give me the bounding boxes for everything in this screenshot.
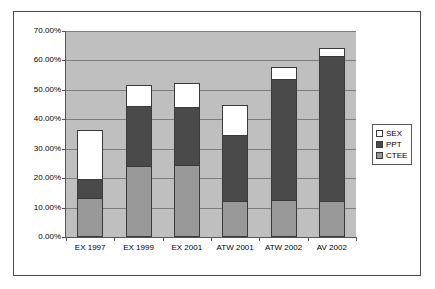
x-axis-category-label: AV 2002 xyxy=(317,244,347,252)
bar-segment-ppt[interactable] xyxy=(174,107,200,166)
gridline xyxy=(66,90,356,91)
chart-frame: 0.00%10.00%20.00%30.00%40.00%50.00%60.00… xyxy=(13,11,421,276)
stacked-bar[interactable] xyxy=(77,130,103,237)
legend-label: SEX xyxy=(386,130,402,138)
plot-area: 0.00%10.00%20.00%30.00%40.00%50.00%60.00… xyxy=(65,31,356,238)
legend-swatch-sex xyxy=(376,130,383,137)
legend-swatch-ppt xyxy=(376,141,383,148)
bar-segment-sex[interactable] xyxy=(222,105,248,136)
bar-segment-ctee[interactable] xyxy=(271,200,297,237)
y-axis-tick-mark xyxy=(62,60,66,61)
bar-segment-ppt[interactable] xyxy=(222,135,248,202)
x-axis-tick-mark xyxy=(114,237,115,241)
chart-legend: SEXPPTCTEE xyxy=(372,124,412,165)
x-axis-category-label: ATW 2002 xyxy=(265,244,302,252)
bar-segment-sex[interactable] xyxy=(126,85,152,107)
gridline xyxy=(66,60,356,61)
legend-label: PPT xyxy=(386,141,402,149)
x-axis-tick-mark xyxy=(356,237,357,241)
x-axis-tick-mark xyxy=(211,237,212,241)
y-axis-tick-label: 50.00% xyxy=(34,86,61,94)
bar-segment-ctee[interactable] xyxy=(126,166,152,237)
bar-segment-sex[interactable] xyxy=(77,130,103,180)
bar-segment-ppt[interactable] xyxy=(271,79,297,201)
gridline xyxy=(66,31,356,32)
y-axis-tick-label: 20.00% xyxy=(34,174,61,182)
x-axis-category-label: EX 2001 xyxy=(171,244,202,252)
y-axis-tick-label: 0.00% xyxy=(38,233,61,241)
bar-segment-ctee[interactable] xyxy=(174,165,200,237)
legend-label: CTEE xyxy=(386,152,407,160)
stacked-bar[interactable] xyxy=(174,83,200,237)
stacked-bar[interactable] xyxy=(271,67,297,237)
x-axis-tick-mark xyxy=(259,237,260,241)
gridline xyxy=(66,119,356,120)
bar-segment-sex[interactable] xyxy=(174,83,200,107)
y-axis-tick-mark xyxy=(62,31,66,32)
y-axis-tick-label: 30.00% xyxy=(34,145,61,153)
y-axis-tick-label: 60.00% xyxy=(34,56,61,64)
bar-segment-sex[interactable] xyxy=(271,67,297,80)
legend-item-ctee[interactable]: CTEE xyxy=(376,150,407,161)
gridline xyxy=(66,208,356,209)
stacked-bar[interactable] xyxy=(222,105,248,237)
y-axis-tick-mark xyxy=(62,149,66,150)
legend-swatch-ctee xyxy=(376,152,383,159)
x-axis-tick-mark xyxy=(163,237,164,241)
y-axis-tick-mark xyxy=(62,119,66,120)
y-axis-tick-mark xyxy=(62,208,66,209)
x-axis-category-label: ATW 2001 xyxy=(217,244,254,252)
y-axis-tick-label: 70.00% xyxy=(34,27,61,35)
y-axis-tick-label: 40.00% xyxy=(34,115,61,123)
bar-segment-ppt[interactable] xyxy=(77,179,103,199)
bar-segment-ctee[interactable] xyxy=(77,198,103,237)
stacked-bar[interactable] xyxy=(319,48,345,237)
x-axis-category-label: EX 1997 xyxy=(75,244,106,252)
legend-item-ppt[interactable]: PPT xyxy=(376,139,407,150)
gridline xyxy=(66,149,356,150)
gridline xyxy=(66,178,356,179)
bar-segment-ppt[interactable] xyxy=(319,56,345,201)
x-axis-tick-mark xyxy=(308,237,309,241)
bar-segment-ppt[interactable] xyxy=(126,106,152,167)
x-axis-tick-mark xyxy=(66,237,67,241)
legend-item-sex[interactable]: SEX xyxy=(376,128,407,139)
y-axis-tick-mark xyxy=(62,178,66,179)
stacked-bar[interactable] xyxy=(126,85,152,237)
y-axis-tick-label: 10.00% xyxy=(34,204,61,212)
x-axis-category-label: EX 1999 xyxy=(123,244,154,252)
bar-segment-ctee[interactable] xyxy=(319,201,345,237)
y-axis-tick-mark xyxy=(62,90,66,91)
bar-segment-ctee[interactable] xyxy=(222,201,248,237)
